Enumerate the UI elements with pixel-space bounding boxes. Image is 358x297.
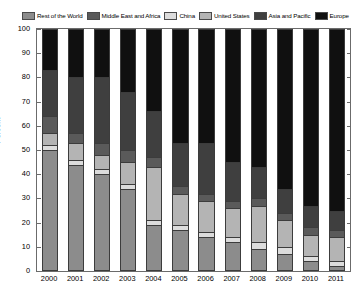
y-axis-tick-mark — [37, 271, 41, 272]
bar-segment[interactable] — [329, 29, 345, 211]
bar-column[interactable] — [251, 29, 267, 271]
bar-segment[interactable] — [303, 227, 319, 234]
y-axis-tick-mark — [37, 126, 41, 127]
x-axis-tick-label: 2006 — [197, 274, 213, 283]
bar-segment[interactable] — [225, 29, 241, 162]
bar-segment[interactable] — [198, 143, 214, 194]
bar-segment[interactable] — [68, 165, 84, 271]
bar-segment[interactable] — [277, 220, 293, 247]
bar-segment[interactable] — [303, 206, 319, 228]
bar-segment[interactable] — [42, 116, 58, 133]
bar-column[interactable] — [94, 29, 110, 271]
bar-segment[interactable] — [146, 157, 162, 167]
bar-segment[interactable] — [277, 254, 293, 271]
y-axis-tick-mark — [347, 150, 351, 151]
bar-segment[interactable] — [94, 29, 110, 77]
y-axis-tick-mark — [37, 29, 41, 30]
bar-column[interactable] — [277, 29, 293, 271]
y-axis-tick-label: 90 — [2, 48, 30, 57]
bar-segment[interactable] — [329, 237, 345, 261]
y-axis-tick-mark — [347, 174, 351, 175]
bar-segment[interactable] — [42, 145, 58, 150]
bar-segment[interactable] — [68, 133, 84, 143]
bar-segment[interactable] — [251, 206, 267, 242]
bar-column[interactable] — [120, 29, 136, 271]
bar-column[interactable] — [225, 29, 241, 271]
x-axis-tick-label: 2009 — [276, 274, 292, 283]
bar-segment[interactable] — [251, 167, 267, 198]
bar-segment[interactable] — [251, 249, 267, 271]
bar-segment[interactable] — [172, 225, 188, 230]
bar-segment[interactable] — [277, 29, 293, 189]
bar-segment[interactable] — [146, 225, 162, 271]
bar-segment[interactable] — [172, 143, 188, 187]
x-axis-tick-label: 2007 — [223, 274, 239, 283]
bar-segment[interactable] — [42, 133, 58, 145]
bar-segment[interactable] — [68, 143, 84, 160]
bar-segment[interactable] — [172, 186, 188, 193]
bar-segment[interactable] — [251, 242, 267, 249]
bar-segment[interactable] — [42, 150, 58, 271]
bar-segment[interactable] — [94, 174, 110, 271]
bar-column[interactable] — [146, 29, 162, 271]
bar-segment[interactable] — [329, 266, 345, 271]
bar-segment[interactable] — [225, 201, 241, 208]
legend-label: Asia and Pacific — [269, 12, 311, 20]
bar-segment[interactable] — [225, 242, 241, 271]
x-axis-tick-label: 2008 — [249, 274, 265, 283]
bar-segment[interactable] — [225, 208, 241, 237]
bar-segment[interactable] — [329, 211, 345, 230]
bar-segment[interactable] — [120, 189, 136, 271]
bar-segment[interactable] — [303, 29, 319, 206]
bar-segment[interactable] — [277, 213, 293, 220]
bar-segment[interactable] — [198, 237, 214, 271]
bar-segment[interactable] — [251, 198, 267, 205]
bar-segment[interactable] — [120, 162, 136, 184]
bar-segment[interactable] — [329, 230, 345, 237]
bar-segment[interactable] — [198, 194, 214, 201]
bar-segment[interactable] — [172, 29, 188, 143]
bar-segment[interactable] — [146, 220, 162, 225]
legend-entry: Europe — [315, 12, 349, 20]
bar-segment[interactable] — [198, 201, 214, 232]
bar-segment[interactable] — [146, 29, 162, 111]
bar-segment[interactable] — [94, 143, 110, 155]
bar-column[interactable] — [42, 29, 58, 271]
bar-segment[interactable] — [120, 150, 136, 162]
bar-segment[interactable] — [42, 70, 58, 116]
bar-column[interactable] — [68, 29, 84, 271]
bar-column[interactable] — [329, 29, 345, 271]
bar-segment[interactable] — [198, 29, 214, 143]
bar-segment[interactable] — [120, 92, 136, 150]
bar-segment[interactable] — [68, 29, 84, 77]
bar-segment[interactable] — [172, 194, 188, 225]
bar-segment[interactable] — [94, 77, 110, 142]
bar-segment[interactable] — [146, 167, 162, 220]
bar-segment[interactable] — [94, 155, 110, 170]
bar-column[interactable] — [198, 29, 214, 271]
plot-area — [37, 29, 350, 271]
bar-segment[interactable] — [172, 230, 188, 271]
bar-segment[interactable] — [277, 247, 293, 254]
bar-segment[interactable] — [120, 29, 136, 92]
bar-column[interactable] — [172, 29, 188, 271]
bar-segment[interactable] — [68, 160, 84, 165]
bar-segment[interactable] — [329, 261, 345, 266]
bar-segment[interactable] — [42, 29, 58, 70]
bar-segment[interactable] — [94, 169, 110, 174]
legend-label: China — [179, 12, 195, 20]
bar-segment[interactable] — [251, 29, 267, 167]
bar-segment[interactable] — [303, 235, 319, 257]
legend-swatch-icon — [315, 12, 328, 20]
bar-segment[interactable] — [277, 189, 293, 213]
bar-segment[interactable] — [68, 77, 84, 133]
bar-segment[interactable] — [146, 111, 162, 157]
bar-segment[interactable] — [303, 256, 319, 261]
bar-segment[interactable] — [303, 261, 319, 271]
bar-segment[interactable] — [198, 232, 214, 237]
bar-segment[interactable] — [225, 162, 241, 201]
legend-entry: Middle East and Africa — [87, 12, 161, 20]
bar-segment[interactable] — [120, 184, 136, 189]
bar-segment[interactable] — [225, 237, 241, 242]
bar-column[interactable] — [303, 29, 319, 271]
